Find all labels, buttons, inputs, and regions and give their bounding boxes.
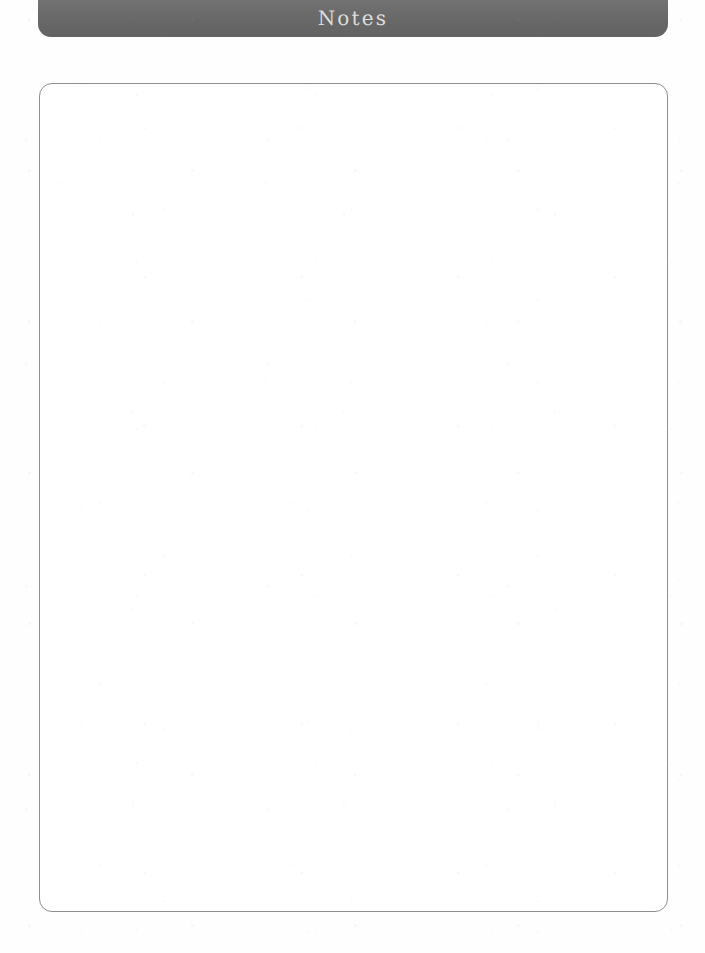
header-banner: Notes xyxy=(38,0,668,37)
notes-page: Notes xyxy=(0,0,705,953)
notes-box[interactable] xyxy=(39,83,668,912)
page-title: Notes xyxy=(318,8,389,28)
notes-writing-area[interactable] xyxy=(40,84,667,911)
